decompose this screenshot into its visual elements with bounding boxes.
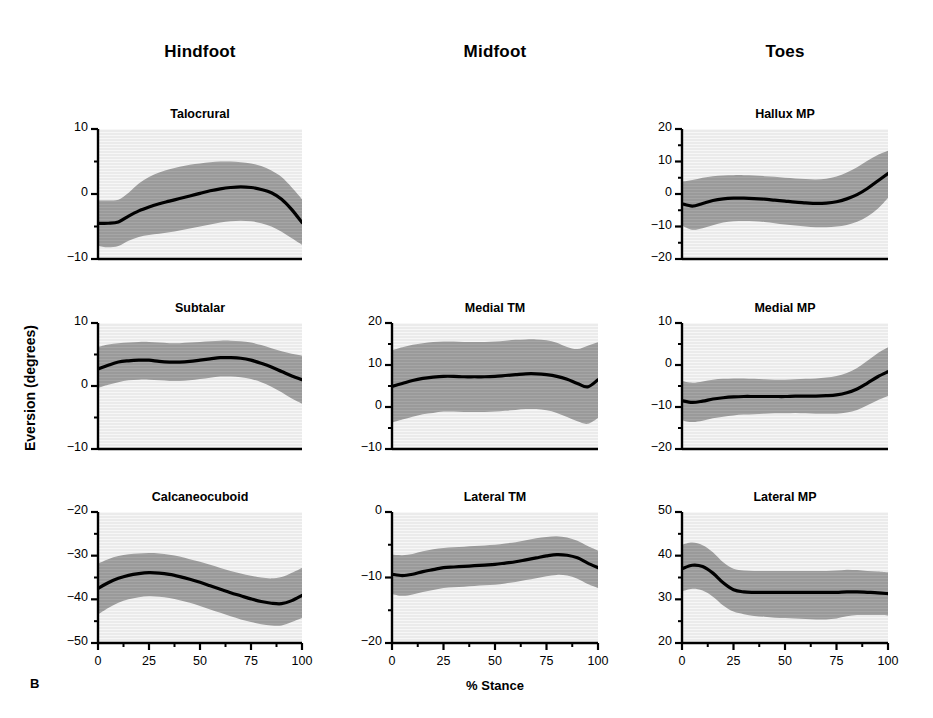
x-tick-label: 100 bbox=[866, 654, 910, 668]
x-tick-label: 25 bbox=[127, 654, 171, 668]
y-tick-label: −40 bbox=[36, 590, 88, 604]
subplot-title: Calcaneocuboid bbox=[98, 490, 302, 504]
x-tick-label: 0 bbox=[660, 654, 704, 668]
subplot-medial-tm: Medial TM20100−10 bbox=[392, 323, 598, 449]
x-tick-label: 75 bbox=[229, 654, 273, 668]
y-tick-label: −10 bbox=[36, 440, 88, 454]
subplot-subtalar: Subtalar100−10 bbox=[98, 323, 302, 449]
x-tick-label: 50 bbox=[178, 654, 222, 668]
subplot-title: Medial TM bbox=[392, 301, 598, 315]
subplot-medial-mp: Medial MP100−10−20 bbox=[682, 323, 888, 449]
y-tick-label: −10 bbox=[36, 250, 88, 264]
column-header-toes: Toes bbox=[682, 42, 888, 62]
subplot-title: Subtalar bbox=[98, 301, 302, 315]
subplot-title: Talocrural bbox=[98, 107, 302, 121]
y-tick-label: 0 bbox=[36, 185, 88, 199]
x-tick-label: 0 bbox=[370, 654, 414, 668]
x-axis-label: % Stance bbox=[392, 678, 598, 693]
subplot-hallux-mp: Hallux MP20100−10−20 bbox=[682, 129, 888, 259]
y-tick-label: 10 bbox=[620, 153, 672, 167]
subplot-title: Hallux MP bbox=[682, 107, 888, 121]
x-tick-label: 0 bbox=[76, 654, 120, 668]
y-tick-label: −20 bbox=[330, 634, 382, 648]
y-tick-label: 10 bbox=[36, 314, 88, 328]
subplot-title: Lateral MP bbox=[682, 490, 888, 504]
x-tick-label: 75 bbox=[525, 654, 569, 668]
y-tick-label: −10 bbox=[620, 398, 672, 412]
y-tick-label: −20 bbox=[620, 440, 672, 454]
x-tick-label: 25 bbox=[712, 654, 756, 668]
y-tick-label: −20 bbox=[36, 503, 88, 517]
y-tick-label: 30 bbox=[620, 590, 672, 604]
subplot-lateral-mp: Lateral MP504030200255075100 bbox=[682, 512, 888, 643]
y-tick-label: −50 bbox=[36, 634, 88, 648]
axes bbox=[368, 512, 604, 657]
y-tick-label: −30 bbox=[36, 547, 88, 561]
axes bbox=[658, 129, 894, 273]
subplot-talocrural: Talocrural100−10 bbox=[98, 129, 302, 259]
y-tick-label: 40 bbox=[620, 547, 672, 561]
figure-panel-b: Hindfoot Midfoot Toes Eversion (degrees)… bbox=[0, 0, 933, 718]
x-tick-label: 100 bbox=[576, 654, 620, 668]
y-tick-label: 10 bbox=[330, 356, 382, 370]
axes bbox=[74, 323, 308, 463]
y-tick-label: −20 bbox=[620, 250, 672, 264]
y-tick-label: −10 bbox=[330, 440, 382, 454]
x-tick-label: 50 bbox=[473, 654, 517, 668]
subplot-lateral-tm: Lateral TM0−10−200255075100 bbox=[392, 512, 598, 643]
axes bbox=[658, 323, 894, 463]
y-tick-label: 20 bbox=[620, 634, 672, 648]
y-tick-label: 10 bbox=[620, 314, 672, 328]
y-tick-label: −10 bbox=[620, 218, 672, 232]
y-tick-label: 0 bbox=[36, 377, 88, 391]
y-tick-label: 0 bbox=[620, 185, 672, 199]
column-header-hindfoot: Hindfoot bbox=[98, 42, 302, 62]
axes bbox=[74, 512, 308, 657]
axes bbox=[368, 323, 604, 463]
column-header-midfoot: Midfoot bbox=[392, 42, 598, 62]
x-tick-label: 100 bbox=[280, 654, 324, 668]
x-tick-label: 25 bbox=[422, 654, 466, 668]
panel-letter: B bbox=[30, 676, 39, 691]
axes bbox=[74, 129, 308, 273]
x-tick-label: 75 bbox=[815, 654, 859, 668]
subplot-title: Medial MP bbox=[682, 301, 888, 315]
y-tick-label: −10 bbox=[330, 569, 382, 583]
y-tick-label: 0 bbox=[620, 356, 672, 370]
x-tick-label: 50 bbox=[763, 654, 807, 668]
y-tick-label: 20 bbox=[330, 314, 382, 328]
subplot-calcaneocuboid: Calcaneocuboid−20−30−40−500255075100 bbox=[98, 512, 302, 643]
y-tick-label: 10 bbox=[36, 120, 88, 134]
y-tick-label: 0 bbox=[330, 398, 382, 412]
axes bbox=[658, 512, 894, 657]
subplot-title: Lateral TM bbox=[392, 490, 598, 504]
y-tick-label: 0 bbox=[330, 503, 382, 517]
y-tick-label: 50 bbox=[620, 503, 672, 517]
y-tick-label: 20 bbox=[620, 120, 672, 134]
